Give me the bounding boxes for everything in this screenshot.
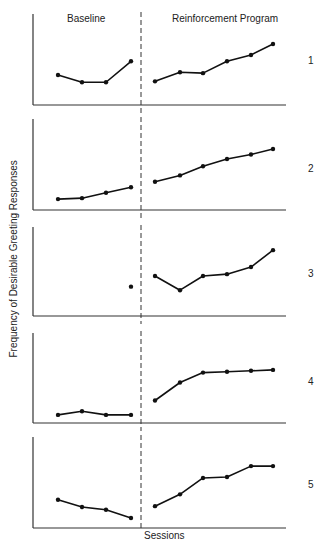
treatment-panel-4-line bbox=[155, 370, 273, 401]
baseline-panel-5-point bbox=[129, 516, 133, 520]
treatment-panel-4-point bbox=[153, 398, 157, 402]
treatment-panel-1-line bbox=[155, 44, 273, 81]
treatment-panel-1-point bbox=[249, 53, 253, 57]
baseline-panel-4-point bbox=[56, 413, 60, 417]
baseline-panel-5-point bbox=[104, 508, 108, 512]
treatment-panel-2-point bbox=[225, 157, 229, 161]
baseline-panel-3-point bbox=[129, 284, 133, 288]
panel-label-4: 4 bbox=[308, 376, 314, 387]
baseline-panel-2-point bbox=[80, 196, 84, 200]
treatment-panel-4-point bbox=[225, 370, 229, 374]
baseline-panel-4-point bbox=[104, 413, 108, 417]
baseline-panel-4-point bbox=[129, 413, 133, 417]
panel-label-1: 1 bbox=[308, 55, 314, 66]
treatment-panel-3-line bbox=[155, 250, 273, 290]
treatment-panel-1-point bbox=[153, 79, 157, 83]
baseline-panel-5-line bbox=[58, 500, 131, 518]
x-axis-label: Sessions bbox=[144, 530, 185, 541]
baseline-panel-2-point bbox=[104, 191, 108, 195]
baseline-panel-4-line bbox=[58, 411, 131, 415]
treatment-panel-1-point bbox=[225, 59, 229, 63]
treatment-panel-1-point bbox=[201, 71, 205, 75]
multiple-baseline-chart bbox=[0, 0, 331, 550]
treatment-panel-3-point bbox=[153, 274, 157, 278]
baseline-panel-5-point bbox=[80, 505, 84, 509]
treatment-panel-2-line bbox=[155, 149, 273, 182]
treatment-panel-4-point bbox=[201, 370, 205, 374]
baseline-panel-1-line bbox=[58, 61, 131, 82]
treatment-panel-2-point bbox=[201, 164, 205, 168]
treatment-panel-5-point bbox=[271, 464, 275, 468]
baseline-panel-1-point bbox=[129, 59, 133, 63]
y-axis-label: Frequency of Desirable Greeting Response… bbox=[8, 178, 19, 358]
baseline-panel-1-point bbox=[56, 73, 60, 77]
treatment-panel-3-point bbox=[271, 248, 275, 252]
baseline-panel-2-point bbox=[129, 185, 133, 189]
treatment-panel-2-point bbox=[178, 173, 182, 177]
treatment-panel-4-point bbox=[271, 368, 275, 372]
treatment-panel-1-point bbox=[178, 70, 182, 74]
phase-label-reinforcement: Reinforcement Program bbox=[172, 13, 278, 24]
phase-label-baseline: Baseline bbox=[67, 13, 105, 24]
treatment-panel-5-point bbox=[249, 464, 253, 468]
panel-label-3: 3 bbox=[308, 268, 314, 279]
baseline-panel-5-point bbox=[56, 498, 60, 502]
baseline-panel-1-point bbox=[80, 80, 84, 84]
baseline-panel-2-point bbox=[56, 197, 60, 201]
baseline-panel-1-point bbox=[104, 80, 108, 84]
treatment-panel-3-point bbox=[249, 265, 253, 269]
treatment-panel-4-point bbox=[249, 369, 253, 373]
baseline-panel-4-point bbox=[80, 409, 84, 413]
treatment-panel-2-point bbox=[249, 152, 253, 156]
treatment-panel-5-point bbox=[201, 476, 205, 480]
treatment-panel-2-point bbox=[153, 180, 157, 184]
treatment-panel-5-line bbox=[155, 466, 273, 506]
treatment-panel-5-point bbox=[153, 504, 157, 508]
treatment-panel-5-point bbox=[225, 475, 229, 479]
treatment-panel-4-point bbox=[178, 380, 182, 384]
treatment-panel-5-point bbox=[178, 492, 182, 496]
panel-label-2: 2 bbox=[308, 163, 314, 174]
treatment-panel-3-point bbox=[225, 272, 229, 276]
baseline-panel-2-line bbox=[58, 187, 131, 199]
panel-label-5: 5 bbox=[308, 479, 314, 490]
treatment-panel-3-point bbox=[201, 274, 205, 278]
treatment-panel-2-point bbox=[271, 147, 275, 151]
treatment-panel-3-point bbox=[178, 288, 182, 292]
treatment-panel-1-point bbox=[271, 42, 275, 46]
